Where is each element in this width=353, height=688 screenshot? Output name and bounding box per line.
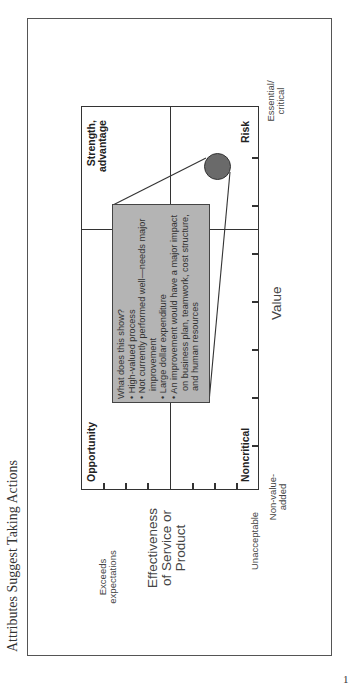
risk-marker-circle: [204, 153, 231, 180]
y-axis-high-label-line2: expectations: [108, 542, 118, 612]
x-axis-high-label: Essential/ critical: [266, 65, 286, 137]
callout-line: • An improvement would have a major impa…: [169, 214, 180, 399]
x-axis-low-label: Non-value- added: [268, 467, 288, 527]
callout-line: • Large dollar expenditure: [158, 214, 169, 399]
page-number: 1: [343, 673, 349, 685]
y-axis-high-label: Exceeds expectations: [98, 542, 118, 612]
x-axis-low-label-line2: added: [278, 467, 288, 527]
x-axis-high-label-line2: critical: [276, 65, 286, 137]
callout-text: What does this show? • High-valued proce…: [116, 214, 201, 399]
callout-line: and human resources: [190, 214, 201, 399]
callout-line: • Not currently performed well—needs maj…: [137, 214, 148, 399]
y-axis-title-line3: Product: [174, 508, 188, 588]
y-axis-title-line1: Effectiveness: [146, 508, 160, 588]
x-axis-title: Value: [270, 286, 284, 320]
y-axis-title-line2: of Service or: [160, 508, 174, 588]
callout-line: improvement: [148, 214, 159, 399]
y-axis-title: Effectiveness of Service or Product: [146, 508, 188, 588]
y-axis-low-label: Unacceptable: [250, 512, 260, 570]
callout-line: • High-valued process: [127, 214, 138, 399]
callout-heading: What does this show?: [116, 214, 127, 399]
callout-line: on business plan, teamwork, cost structu…: [180, 214, 191, 399]
